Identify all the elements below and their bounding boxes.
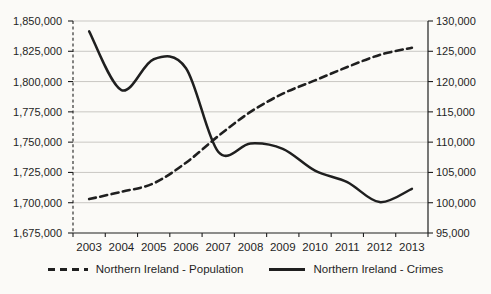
y-axis-left-tick-label: 1,725,000 — [13, 166, 62, 178]
y-axis-right-tick-label: 130,000 — [436, 15, 476, 27]
y-axis-right-tick-label: 120,000 — [436, 76, 476, 88]
dashed-line-icon — [48, 268, 88, 271]
legend: Northern Ireland - Population Northern I… — [0, 263, 491, 275]
y-axis-right-tick-label: 125,000 — [436, 45, 476, 57]
chart-container: 1,850,0001,825,0001,800,0001,775,0001,75… — [0, 0, 491, 294]
y-axis-left-tick-label: 1,700,000 — [13, 197, 62, 209]
x-axis-tick-label: 2003 — [76, 241, 102, 253]
y-axis-right-tick-label: 115,000 — [436, 106, 475, 118]
y-axis-right-tick-label: 110,000 — [436, 136, 475, 148]
x-axis-tick-label: 2010 — [302, 241, 328, 253]
y-axis-left-tick-label: 1,850,000 — [13, 15, 62, 27]
x-axis-tick-label: 2009 — [270, 241, 296, 253]
y-axis-right-tick-label: 100,000 — [436, 197, 476, 209]
x-axis-tick-label: 2008 — [238, 241, 264, 253]
legend-label-population: Northern Ireland - Population — [96, 263, 244, 275]
solid-line-icon — [269, 268, 305, 271]
x-axis-tick-label: 2007 — [205, 241, 231, 253]
x-axis-tick-label: 2005 — [141, 241, 167, 253]
y-axis-left-tick-label: 1,800,000 — [13, 76, 62, 88]
x-axis-tick-label: 2011 — [335, 241, 360, 253]
x-axis-tick-label: 2013 — [399, 241, 425, 253]
y-axis-left-tick-label: 1,750,000 — [13, 136, 62, 148]
legend-label-crimes: Northern Ireland - Crimes — [313, 263, 443, 275]
x-axis-tick-label: 2004 — [109, 241, 135, 253]
plot-area: 1,850,0001,825,0001,800,0001,775,0001,75… — [0, 0, 491, 294]
legend-item-crimes: Northern Ireland - Crimes — [269, 263, 443, 275]
y-axis-left-tick-label: 1,775,000 — [13, 106, 62, 118]
legend-item-population: Northern Ireland - Population — [48, 263, 244, 275]
y-axis-right-tick-label: 105,000 — [436, 166, 476, 178]
y-axis-right-tick-label: 95,000 — [436, 227, 470, 239]
y-axis-left-tick-label: 1,825,000 — [13, 45, 62, 57]
x-axis-tick-label: 2006 — [173, 241, 199, 253]
crimes-line — [89, 31, 412, 202]
y-axis-left-tick-label: 1,675,000 — [13, 227, 62, 239]
population-line — [89, 48, 412, 199]
x-axis-tick-label: 2012 — [367, 241, 393, 253]
